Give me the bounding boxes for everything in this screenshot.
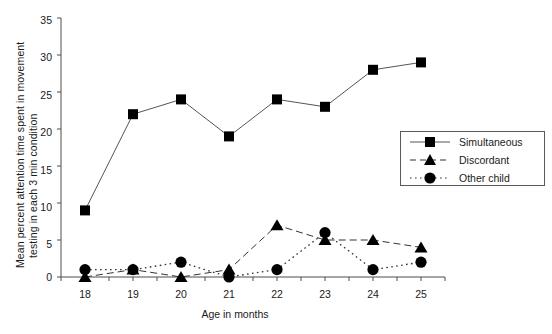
legend-sample-circle-dotted xyxy=(407,169,453,187)
data-point-triangle xyxy=(367,234,380,245)
data-point-circle xyxy=(415,257,426,268)
data-point-square xyxy=(368,65,378,75)
legend-sample-square-solid xyxy=(407,133,453,151)
data-point-circle xyxy=(367,264,378,275)
legend-item-discordant: Discordant xyxy=(407,151,509,169)
data-point-square xyxy=(80,205,90,215)
data-point-square xyxy=(128,109,138,119)
data-point-circle xyxy=(79,264,90,275)
data-point-square xyxy=(416,57,426,67)
legend-sample-triangle-dashed xyxy=(407,151,453,169)
legend-label-discordant: Discordant xyxy=(459,154,509,166)
chart-legend: Simultaneous Discordant Other child xyxy=(400,131,545,186)
data-point-circle xyxy=(223,271,234,282)
legend-label-other-child: Other child xyxy=(459,172,510,184)
legend-item-other-child: Other child xyxy=(407,169,510,187)
data-point-square xyxy=(272,94,282,104)
data-point-circle xyxy=(127,264,138,275)
chart-figure: Mean percent attention time spent in mov… xyxy=(0,0,552,334)
data-point-square xyxy=(224,131,234,141)
data-point-circle xyxy=(319,227,330,238)
data-point-circle xyxy=(175,257,186,268)
data-point-circle xyxy=(271,264,282,275)
data-point-triangle xyxy=(271,219,284,230)
legend-item-simultaneous: Simultaneous xyxy=(407,133,523,151)
data-point-square xyxy=(320,102,330,112)
data-point-square xyxy=(176,94,186,104)
legend-label-simultaneous: Simultaneous xyxy=(459,136,523,148)
